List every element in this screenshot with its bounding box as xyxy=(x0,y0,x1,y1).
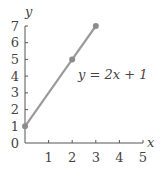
y-axis-label: y xyxy=(24,4,33,19)
data-point xyxy=(93,23,99,29)
x-axis-label: x xyxy=(147,135,155,150)
chart-svg: 0 1 2 3 4 5 6 7 1 2 3 4 5 y x y = 2x + 1 xyxy=(0,0,164,176)
y-tick-label: 5 xyxy=(11,52,19,67)
y-tick-labels: 0 1 2 3 4 5 6 7 xyxy=(11,19,19,151)
data-point xyxy=(22,123,28,129)
x-tick-labels: 1 2 3 4 5 xyxy=(44,150,147,165)
y-tick-label: 6 xyxy=(11,35,19,50)
origin-label: 0 xyxy=(11,136,19,151)
y-tick-label: 7 xyxy=(11,19,19,34)
data-point xyxy=(69,56,75,62)
x-tick-label: 2 xyxy=(68,150,76,165)
x-tick-label: 4 xyxy=(115,150,123,165)
y-tick-label: 2 xyxy=(11,102,19,117)
y-tick-label: 4 xyxy=(11,69,19,84)
x-tick-label: 5 xyxy=(139,150,147,165)
x-tick-label: 1 xyxy=(44,150,52,165)
x-tick-label: 3 xyxy=(92,150,100,165)
y-tick-label: 1 xyxy=(11,119,19,134)
line-chart: 0 1 2 3 4 5 6 7 1 2 3 4 5 y x y = 2x + 1 xyxy=(0,0,164,176)
y-tick-label: 3 xyxy=(11,85,19,100)
equation-label: y = 2x + 1 xyxy=(77,67,148,82)
